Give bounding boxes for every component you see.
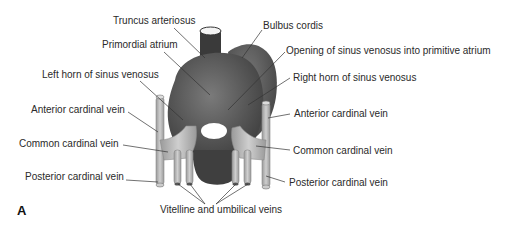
label-posterior-cardinal-vein-right: Posterior cardinal vein (289, 177, 388, 189)
sinus-opening-shape (201, 123, 227, 139)
label-anterior-cardinal-vein-left: Anterior cardinal vein (31, 104, 125, 116)
panel-letter: A (17, 203, 26, 218)
label-opening-sinus-venosus: Opening of sinus venosus into primitive … (286, 45, 491, 57)
label-truncus-arteriosus: Truncus arteriosus (113, 15, 195, 27)
label-vitelline-umbilical-veins: Vitelline and umbilical veins (160, 204, 282, 216)
label-common-cardinal-vein-left: Common cardinal vein (19, 138, 119, 150)
label-posterior-cardinal-vein-left: Posterior cardinal vein (25, 171, 124, 183)
label-common-cardinal-vein-right: Common cardinal vein (293, 145, 393, 157)
label-left-horn-sinus-venosus: Left horn of sinus venosus (42, 69, 159, 81)
label-right-horn-sinus-venosus: Right horn of sinus venosus (293, 72, 416, 84)
label-bulbus-cordis: Bulbus cordis (263, 20, 323, 32)
label-primordial-atrium: Primordial atrium (102, 39, 178, 51)
sinus-venosus-shape (192, 150, 238, 185)
label-anterior-cardinal-vein-right: Anterior cardinal vein (294, 108, 388, 120)
